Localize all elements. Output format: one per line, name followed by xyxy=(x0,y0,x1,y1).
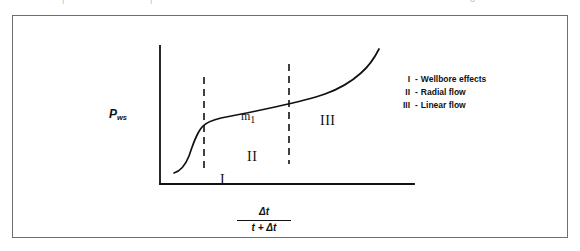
scan-artifact-strip: | | o xyxy=(0,0,580,10)
legend-key-ii: II xyxy=(392,87,415,97)
figure-frame: Pws Δt t + Δt m1 I II III I - Wellbore e… xyxy=(12,15,568,238)
region-label-iii: III xyxy=(320,113,336,129)
axis-lines xyxy=(160,46,414,184)
slope-annotation: m1 xyxy=(241,110,255,125)
legend-label-iii: Linear flow xyxy=(421,100,466,110)
legend-row-iii: III - Linear flow xyxy=(392,100,486,113)
legend-row-ii: II - Radial flow xyxy=(392,87,486,100)
slope-subscript: 1 xyxy=(250,114,255,125)
legend-key-iii: III xyxy=(392,100,415,110)
x-axis-denominator: t + Δt xyxy=(219,221,309,235)
region-label-ii: II xyxy=(247,149,257,165)
legend-label-i: Wellbore effects xyxy=(421,74,487,84)
slope-symbol: m xyxy=(241,109,250,123)
y-axis-symbol: P xyxy=(109,107,117,121)
legend: I - Wellbore effects II - Radial flow II… xyxy=(392,74,486,113)
legend-label-ii: Radial flow xyxy=(421,87,466,97)
x-axis-numerator: Δt xyxy=(237,206,291,221)
y-axis-label: Pws xyxy=(109,108,127,122)
x-axis-label: Δt t + Δt xyxy=(219,206,309,234)
y-axis-subscript: ws xyxy=(117,113,127,122)
legend-row-i: I - Wellbore effects xyxy=(392,74,486,87)
region-label-i: I xyxy=(220,172,225,188)
legend-key-i: I xyxy=(392,74,415,84)
